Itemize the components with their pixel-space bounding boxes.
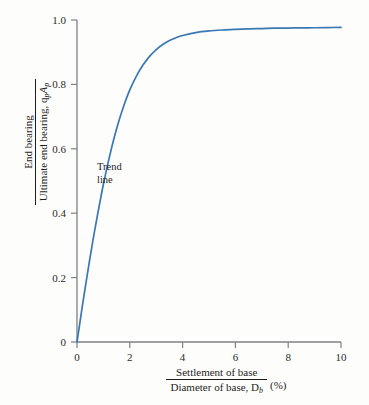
y-tick-marks (71, 20, 77, 342)
x-tick-label-0: 0 (74, 351, 80, 363)
y-tick-label-0.2: 0.2 (52, 272, 66, 284)
plot-area: 1.0 0.8 0.6 0.4 0.2 0 0 2 4 6 8 10 (0, 0, 369, 405)
y-tick-label-0.4: 0.4 (52, 207, 66, 219)
y-tick-label-0: 0 (61, 336, 67, 348)
x-tick-label-6: 6 (233, 351, 239, 363)
x-tick-label-10: 10 (336, 351, 348, 363)
x-tick-label-2: 2 (127, 351, 133, 363)
chart-figure: 1.0 0.8 0.6 0.4 0.2 0 0 2 4 6 8 10 End b… (0, 0, 369, 405)
x-tick-marks (77, 342, 341, 348)
x-tick-label-4: 4 (180, 351, 186, 363)
trend-line-curve (77, 27, 341, 342)
y-tick-label-1.0: 1.0 (52, 14, 66, 26)
y-tick-label-0.6: 0.6 (52, 143, 66, 155)
x-tick-label-8: 8 (285, 351, 291, 363)
y-tick-label-0.8: 0.8 (52, 78, 66, 90)
